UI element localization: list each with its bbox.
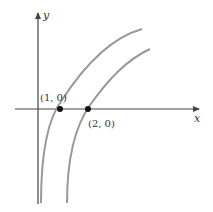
point-2-0	[85, 106, 91, 112]
y-axis-label: y	[42, 9, 50, 22]
graph: x y (1, 0) (2, 0)	[0, 0, 213, 212]
point-1-0	[57, 106, 63, 112]
point-label-1-0: (1, 0)	[40, 92, 67, 103]
curve-ln-x	[41, 29, 142, 203]
x-axis-label: x	[194, 112, 201, 125]
point-label-2-0: (2, 0)	[88, 118, 115, 129]
